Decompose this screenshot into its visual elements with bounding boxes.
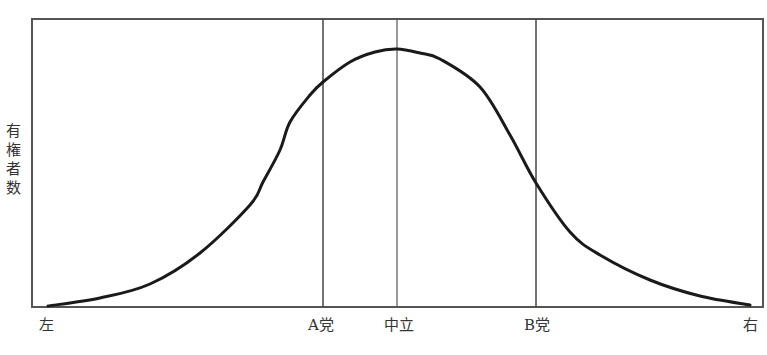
voter-distribution-figure: 有 権 者 数 左 A党 中立 B党 右 — [0, 0, 767, 355]
y-label-char: 数 — [5, 179, 21, 198]
x-label-b-party: B党 — [524, 313, 550, 334]
distribution-curve — [48, 49, 750, 306]
chart-canvas — [0, 0, 767, 355]
y-label-char: 者 — [5, 160, 21, 179]
x-label-a-party: A党 — [308, 313, 334, 334]
x-label-center: 中立 — [384, 313, 414, 334]
x-label-right: 右 — [743, 313, 758, 334]
y-label-char: 有 — [5, 122, 21, 141]
y-label-char: 権 — [5, 141, 21, 160]
y-axis-label: 有 権 者 数 — [5, 122, 21, 198]
x-label-left: 左 — [39, 313, 54, 334]
